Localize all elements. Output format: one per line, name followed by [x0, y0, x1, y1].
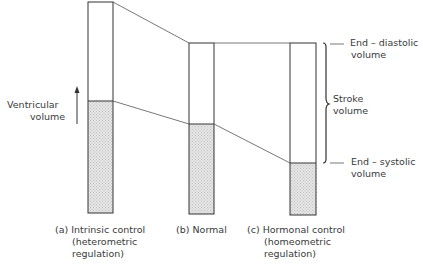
end-systolic-fill-c	[290, 163, 316, 215]
edv-label-line2: volume	[351, 49, 386, 61]
stroke-volume-brace-icon	[323, 43, 329, 163]
caption-c-line1: (c) Hormonal control	[247, 224, 345, 236]
up-arrow-icon	[75, 86, 80, 124]
caption-c-line3: regulation)	[264, 248, 316, 260]
bar-b-normal	[189, 43, 214, 214]
caption-a-line3: regulation)	[72, 248, 124, 260]
caption-b-line1: (b) Normal	[176, 224, 227, 236]
bar-a-intrinsic-control	[88, 2, 113, 213]
end-systolic-fill-b	[189, 124, 214, 214]
edv-label-line1: End – diastolic	[350, 37, 418, 49]
caption-c-line2: (homeometric	[264, 236, 331, 248]
end-systolic-fill-a	[88, 101, 113, 213]
y-axis-label-line2: volume	[30, 111, 65, 123]
caption-a-line2: (heterometric	[72, 236, 137, 248]
sv-label-line1: Stroke	[333, 93, 363, 105]
caption-a-line1: (a) Intrinsic control	[55, 224, 145, 236]
esv-label-line1: End – systolic	[351, 156, 415, 168]
sv-label-line2: volume	[333, 105, 368, 117]
bar-c-hormonal-control	[290, 43, 316, 215]
y-axis-label-line1: Ventricular	[7, 99, 59, 111]
esv-label-line2: volume	[351, 168, 386, 180]
